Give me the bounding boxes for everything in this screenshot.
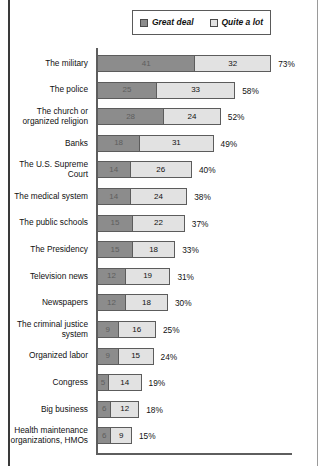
bar-segment-quite-a-lot: 18 bbox=[125, 294, 168, 311]
bar-total-label: 31% bbox=[177, 273, 194, 281]
stacked-bar: 612 bbox=[97, 401, 139, 418]
bar-total-label: 52% bbox=[228, 113, 245, 121]
bar-segment-quite-a-lot: 9 bbox=[110, 427, 132, 444]
bar-total-label: 37% bbox=[192, 220, 209, 228]
stacked-bar: 915 bbox=[97, 348, 154, 365]
stacked-bar: 1219 bbox=[97, 268, 170, 285]
stacked-bar: 2824 bbox=[97, 108, 221, 125]
stacked-bar: 1426 bbox=[97, 161, 192, 178]
bar-segment-quite-a-lot: 33 bbox=[156, 82, 235, 99]
bar-segment-quite-a-lot: 32 bbox=[194, 55, 271, 72]
bar-segment-great-deal: 6 bbox=[97, 427, 111, 444]
bar-segment-great-deal: 18 bbox=[97, 135, 140, 152]
bar-segment-great-deal: 15 bbox=[97, 241, 133, 258]
stacked-bar: 1518 bbox=[97, 241, 175, 258]
bar-segment-quite-a-lot: 22 bbox=[132, 215, 185, 232]
category-label: Big business bbox=[0, 400, 88, 419]
bar-total-label: 30% bbox=[175, 299, 192, 307]
chart-plot-area: The military413273%The police253358%The … bbox=[0, 0, 328, 469]
bar-segment-great-deal: 12 bbox=[97, 294, 126, 311]
bar-total-label: 33% bbox=[182, 246, 199, 254]
category-label: The U.S. Supreme Court bbox=[0, 160, 88, 179]
category-label: The church or organized religion bbox=[0, 107, 88, 126]
bar-total-label: 25% bbox=[163, 326, 180, 334]
stacked-bar: 916 bbox=[97, 321, 156, 338]
bar-segment-quite-a-lot: 16 bbox=[118, 321, 156, 338]
bar-segment-quite-a-lot: 24 bbox=[130, 188, 188, 205]
stacked-bar: 4132 bbox=[97, 55, 271, 72]
bar-segment-great-deal: 9 bbox=[97, 321, 119, 338]
bar-segment-quite-a-lot: 15 bbox=[118, 348, 154, 365]
bar-segment-quite-a-lot: 14 bbox=[108, 374, 142, 391]
bar-segment-quite-a-lot: 12 bbox=[110, 401, 139, 418]
bar-segment-quite-a-lot: 26 bbox=[130, 161, 192, 178]
bar-total-label: 38% bbox=[194, 193, 211, 201]
bar-segment-quite-a-lot: 31 bbox=[139, 135, 213, 152]
bar-total-label: 15% bbox=[139, 432, 156, 440]
bar-total-label: 40% bbox=[199, 166, 216, 174]
stacked-bar: 1831 bbox=[97, 135, 214, 152]
category-label: The military bbox=[0, 54, 88, 73]
bar-segment-great-deal: 25 bbox=[97, 82, 157, 99]
category-label: The police bbox=[0, 81, 88, 100]
stacked-bar: 1522 bbox=[97, 215, 185, 232]
x-axis-baseline bbox=[96, 453, 292, 455]
bar-segment-great-deal: 9 bbox=[97, 348, 119, 365]
bar-total-label: 49% bbox=[221, 140, 238, 148]
stacked-bar: 1424 bbox=[97, 188, 187, 205]
category-label: The Presidency bbox=[0, 240, 88, 259]
category-label: Television news bbox=[0, 267, 88, 286]
category-label: The medical system bbox=[0, 187, 88, 206]
bar-segment-quite-a-lot: 24 bbox=[163, 108, 221, 125]
bar-segment-great-deal: 28 bbox=[97, 108, 164, 125]
category-label: Banks bbox=[0, 134, 88, 153]
bar-total-label: 24% bbox=[161, 353, 178, 361]
category-label: Newspapers bbox=[0, 293, 88, 312]
bar-segment-great-deal: 14 bbox=[97, 188, 131, 205]
stacked-bar: 2533 bbox=[97, 82, 235, 99]
bar-segment-quite-a-lot: 19 bbox=[125, 268, 171, 285]
category-label: The criminal justice system bbox=[0, 320, 88, 339]
category-label: Organized labor bbox=[0, 347, 88, 366]
stacked-bar: 69 bbox=[97, 427, 132, 444]
stacked-bar: 1218 bbox=[97, 294, 168, 311]
bar-segment-great-deal: 6 bbox=[97, 401, 111, 418]
bar-total-label: 19% bbox=[149, 379, 166, 387]
category-label: Health maintenance organizations, HMOs bbox=[0, 426, 88, 445]
category-label: The public schools bbox=[0, 214, 88, 233]
bar-total-label: 73% bbox=[278, 60, 295, 68]
bar-segment-great-deal: 15 bbox=[97, 215, 133, 232]
bar-segment-great-deal: 41 bbox=[97, 55, 195, 72]
stacked-bar: 514 bbox=[97, 374, 142, 391]
category-label: Congress bbox=[0, 373, 88, 392]
bar-segment-great-deal: 14 bbox=[97, 161, 131, 178]
bar-segment-quite-a-lot: 18 bbox=[132, 241, 175, 258]
bar-total-label: 58% bbox=[242, 87, 259, 95]
bar-segment-great-deal: 12 bbox=[97, 268, 126, 285]
bar-total-label: 18% bbox=[146, 406, 163, 414]
